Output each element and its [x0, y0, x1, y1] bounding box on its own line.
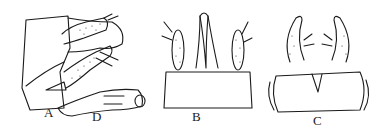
panel-b-drawing	[162, 13, 252, 108]
panel-c-drawing	[269, 16, 369, 112]
panel-d-drawing	[58, 89, 145, 116]
panel-label-a: A	[44, 106, 53, 119]
panel-label-d: D	[92, 110, 101, 123]
panel-label-c: C	[313, 114, 322, 127]
panel-label-b: B	[192, 110, 201, 123]
